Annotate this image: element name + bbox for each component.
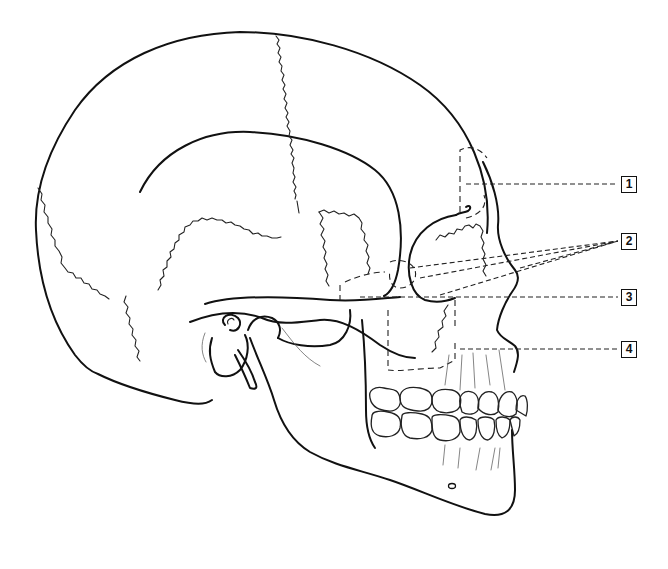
leader-line-2a	[420, 241, 618, 278]
temporal-line	[140, 132, 401, 296]
external-acoustic-meatus	[223, 315, 240, 331]
label-2: 2	[621, 233, 637, 250]
lambdoid-suture	[38, 188, 109, 299]
upper-teeth	[370, 387, 528, 416]
zygomatic-arch	[205, 297, 400, 304]
frontal-notch	[297, 201, 299, 213]
occipitomastoid-suture	[124, 296, 140, 361]
lacrimal-ethmoid-dashed	[340, 260, 416, 300]
zygomaticomaxillary-suture	[432, 305, 448, 352]
styloid-process	[235, 350, 256, 389]
leader-line-2c	[440, 241, 618, 295]
mandible-ramus	[250, 338, 515, 515]
leader-line-2b	[410, 241, 618, 268]
maxilla-sutures	[436, 224, 486, 276]
label-4: 4	[621, 341, 637, 358]
coronoid-notch	[278, 310, 350, 346]
sphenoid-suture	[319, 212, 329, 286]
skull-lateral-diagram	[0, 0, 668, 569]
lower-teeth	[371, 411, 520, 441]
mental-foramen	[449, 484, 456, 489]
squamosal-suture	[158, 218, 281, 290]
label-1: 1	[621, 176, 637, 193]
cranium-outline	[36, 32, 488, 404]
mastoid-line	[202, 333, 206, 362]
frontal-process	[456, 206, 470, 215]
nasal-bone-dashed	[460, 148, 487, 218]
nasal-profile	[483, 162, 518, 372]
label-3: 3	[621, 289, 637, 306]
orbit-rim	[409, 215, 456, 302]
maxilla-dashed	[388, 300, 455, 371]
tooth-root-lines	[443, 350, 505, 470]
coronal-suture	[276, 36, 296, 199]
meatus-inner	[228, 318, 234, 324]
